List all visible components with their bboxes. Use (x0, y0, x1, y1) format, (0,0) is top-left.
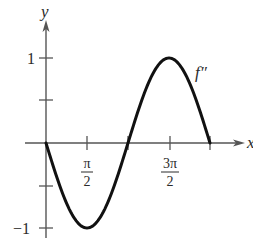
x-tick-label-pi-half-num: π (83, 156, 90, 171)
x-tick-label-3pi-half-num: 3π (163, 156, 177, 171)
y-tick-label-neg1: −1 (13, 220, 30, 237)
x-tick-label-3pi-half-den: 2 (167, 174, 174, 189)
curve-label: f″ (195, 63, 208, 82)
x-axis-label: x (246, 133, 253, 152)
x-tick-label-pi-half-den: 2 (84, 174, 91, 189)
y-tick-label-1: 1 (27, 50, 35, 67)
y-axis-label: y (39, 2, 49, 21)
chart: y x f″ 1 −1 π 2 3π 2 (0, 0, 253, 238)
